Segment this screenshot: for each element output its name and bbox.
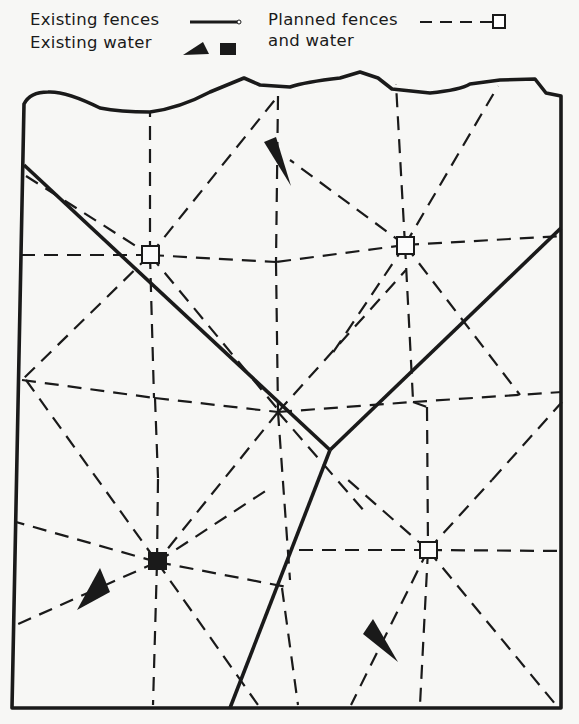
legend-planned-water-square-icon — [493, 15, 505, 28]
pasture-diagram — [0, 0, 579, 724]
planned-water-point-icon — [420, 542, 437, 558]
legend-symbols — [183, 15, 505, 55]
legend-existing-water-triangle-icon — [183, 42, 209, 55]
existing-fence-diagonal-s — [230, 450, 330, 708]
legend-existing-fence-end — [237, 20, 241, 24]
existing-water-troughs — [77, 137, 398, 662]
existing-fence-diagonal-nw — [24, 165, 330, 450]
existing-water-trough-icon — [363, 619, 398, 662]
existing-water-trough-icon — [77, 568, 110, 610]
legend-existing-water-square-icon — [220, 43, 236, 55]
existing-water-tank-icon — [148, 552, 167, 570]
planned-fences — [16, 84, 562, 705]
planned-water-point-icon — [142, 246, 159, 263]
planned-water-point-icon — [397, 237, 414, 254]
existing-fence-diagonal-ne — [330, 228, 561, 450]
